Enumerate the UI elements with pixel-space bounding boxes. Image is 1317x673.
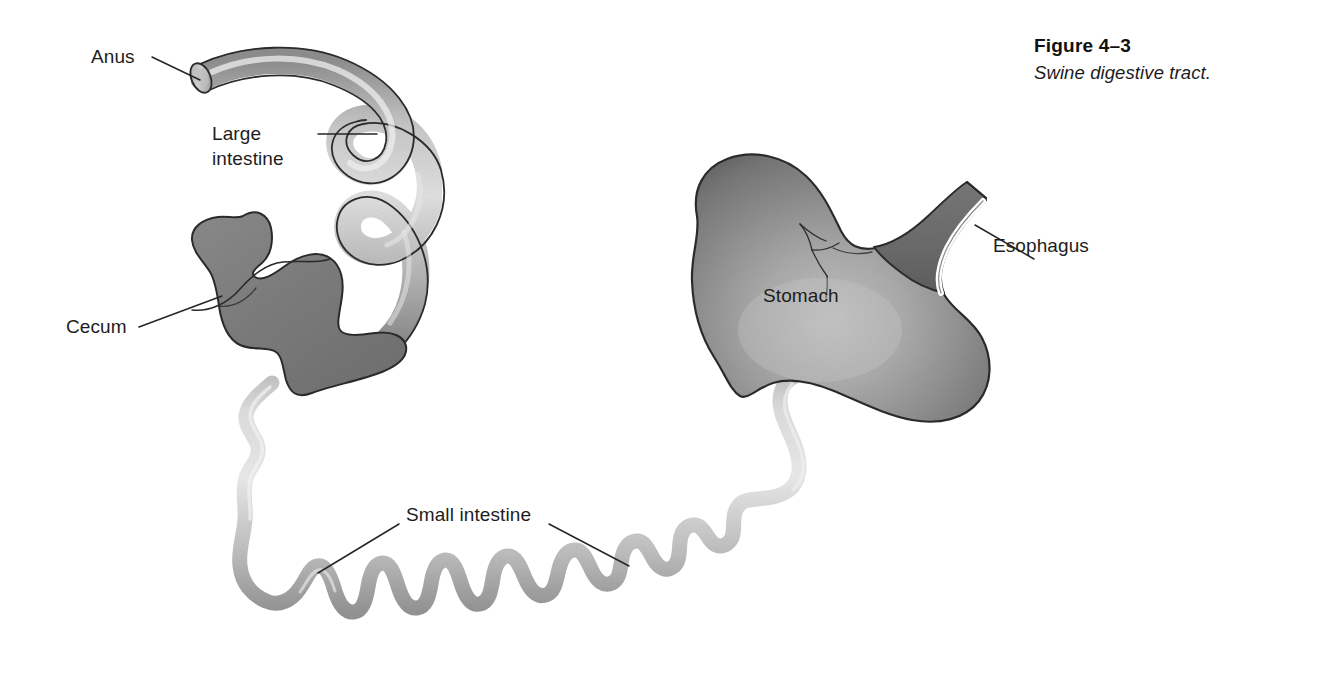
figure-caption-text: Swine digestive tract. [1034, 61, 1294, 85]
stomach [692, 154, 990, 421]
label-large-intestine-line1: Large [212, 123, 261, 144]
label-cecum: Cecum [66, 316, 127, 337]
label-anus: Anus [91, 46, 135, 67]
label-stomach: Stomach [763, 285, 839, 306]
label-esophagus: Esophagus [993, 235, 1089, 256]
leader-cecum [139, 296, 222, 327]
figure-caption: Figure 4–3 Swine digestive tract. [1034, 34, 1294, 85]
label-small-intestine: Small intestine [406, 504, 531, 525]
swine-digestive-tract-diagram: Anus Large intestine Cecum Small intesti… [0, 0, 1317, 673]
figure-number: Figure 4–3 [1034, 34, 1294, 58]
label-large-intestine-line2: intestine [212, 148, 284, 169]
figure-page: Anus Large intestine Cecum Small intesti… [0, 0, 1317, 673]
